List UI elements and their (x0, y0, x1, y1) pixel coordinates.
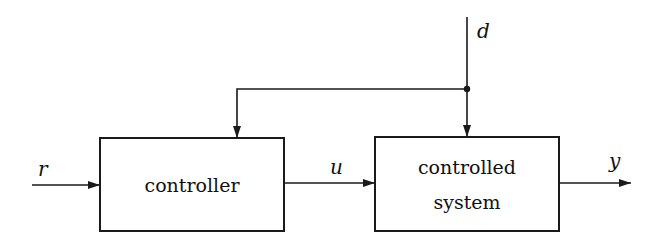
controlled-system-label-line1: controlled (418, 156, 516, 178)
signal-label-r: r (38, 157, 49, 181)
controlled-system-label-line2: system (433, 191, 500, 213)
feedforward-branch-arrow (237, 89, 467, 138)
controlled-system-block (375, 137, 559, 231)
controller-label: controller (145, 174, 241, 196)
signal-label-u: u (330, 155, 343, 179)
feedforward-control-diagram: r controller u controlled system y d (0, 0, 663, 245)
junction-dot (464, 86, 470, 92)
signal-label-y: y (608, 149, 621, 173)
signal-label-d: d (477, 19, 490, 43)
